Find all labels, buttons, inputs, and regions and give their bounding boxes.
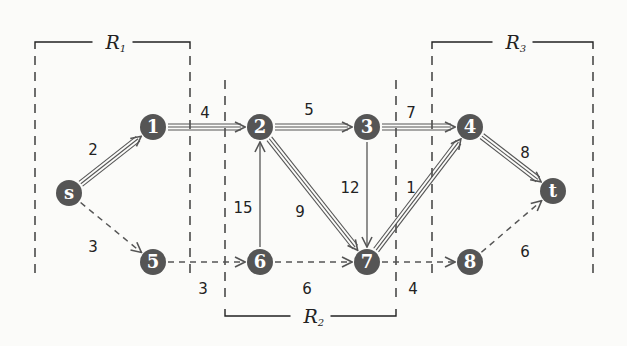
- node-label: s: [64, 182, 74, 203]
- node-1: 1: [140, 114, 166, 140]
- region-bracket-left: [225, 309, 291, 316]
- edge-weight-6-7: 6: [302, 280, 312, 298]
- edge-weight-s-5: 3: [88, 238, 98, 256]
- node-label: 7: [361, 251, 374, 272]
- edge-7-4: [374, 139, 461, 252]
- node-s: s: [56, 180, 82, 206]
- edge-2-3: [275, 124, 352, 130]
- node-label: 8: [464, 251, 477, 272]
- region-bracket-left: [35, 42, 93, 49]
- edge-weight-2-3: 5: [304, 101, 314, 119]
- node-t: t: [540, 178, 566, 204]
- node-8: 8: [457, 249, 483, 275]
- edge-weight-5-6: 3: [198, 280, 208, 298]
- region-bracket-right: [331, 309, 397, 316]
- node-label: 4: [464, 116, 477, 137]
- edge-weight-s-1: 2: [88, 141, 98, 159]
- region-label: R2: [303, 305, 325, 328]
- node-7: 7: [354, 249, 380, 275]
- edge-3-4: [382, 124, 455, 130]
- edge-weight-7-4: 1: [406, 179, 416, 197]
- edge-weight-3-7: 12: [340, 179, 359, 197]
- node-5: 5: [140, 249, 166, 275]
- edge-weight-4-t: 8: [520, 144, 530, 162]
- edges-layer: [79, 124, 542, 262]
- edge-weight-8-t: 6: [520, 243, 530, 261]
- edge-weight-2-7: 9: [295, 203, 305, 221]
- region-r3: R3: [432, 31, 593, 276]
- node-label: 6: [254, 251, 267, 272]
- node-3: 3: [354, 114, 380, 140]
- node-label: 5: [147, 251, 160, 272]
- region-label: R3: [505, 31, 527, 54]
- node-6: 6: [247, 249, 273, 275]
- edge-weight-3-4: 7: [406, 104, 416, 122]
- region-label: R1: [105, 31, 127, 54]
- regions-layer: R1R2R3: [35, 31, 593, 328]
- region-bracket-right: [533, 42, 594, 49]
- edge-weight-1-2: 4: [200, 104, 210, 122]
- edge-4-t: [480, 134, 541, 182]
- node-label: 3: [361, 116, 374, 137]
- node-label: 2: [254, 116, 267, 137]
- node-4: 4: [457, 114, 483, 140]
- region-bracket-left: [432, 42, 493, 49]
- edge-weight-6-2: 15: [233, 199, 252, 217]
- node-2: 2: [247, 114, 273, 140]
- edge-weight-7-8: 4: [408, 280, 418, 298]
- node-label: 1: [147, 116, 160, 137]
- node-label: t: [549, 180, 558, 201]
- region-r1: R1: [35, 31, 190, 276]
- region-bracket-right: [133, 42, 191, 49]
- edge-8-t: [481, 201, 541, 252]
- flow-network-diagram: R1R2R3 s1234t5678 2457891151233646: [0, 0, 627, 346]
- edge-1-2: [168, 124, 245, 130]
